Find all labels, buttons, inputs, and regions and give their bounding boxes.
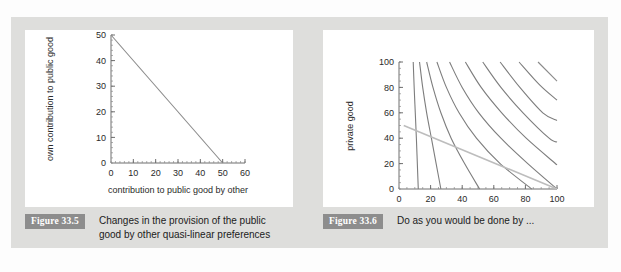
indifference-curve xyxy=(450,62,557,189)
y-tick-label: 10 xyxy=(96,133,106,143)
chart-right-ticklabels: 020406080100020406080100 xyxy=(379,57,565,204)
x-tick-label: 60 xyxy=(240,168,250,178)
chart-right-ticks xyxy=(399,62,557,189)
indifference-curve xyxy=(413,62,418,189)
x-tick-label: 0 xyxy=(108,168,113,178)
y-axis-title: own contribution to public good xyxy=(45,37,55,161)
x-tick-label: 60 xyxy=(489,194,499,204)
x-tick-label: 0 xyxy=(396,194,401,204)
y-tick-label: 20 xyxy=(384,159,394,169)
figure-badge-33-6: Figure 33.6 xyxy=(323,214,383,229)
caption-figure-33-5: Figure 33.5 Changes in the provision of … xyxy=(25,214,315,241)
chart-left-ticks xyxy=(111,35,245,163)
x-tick-label: 40 xyxy=(195,168,205,178)
x-tick-label: 100 xyxy=(549,194,564,204)
x-tick-label: 40 xyxy=(457,194,467,204)
scanned-page: 010203040506001020304050 contribution to… xyxy=(0,0,621,272)
caption-text-33-5: Changes in the provision of the public g… xyxy=(99,214,315,241)
chart-left-ticklabels: 010203040506001020304050 xyxy=(96,30,250,178)
indifference-curve xyxy=(420,62,441,189)
y-axis-title: private good xyxy=(345,101,355,151)
x-tick-label: 30 xyxy=(173,168,183,178)
chart-left-svg: 010203040506001020304050 contribution to… xyxy=(25,30,293,207)
chart-right-axes xyxy=(399,62,557,189)
chart-left-series xyxy=(111,35,223,163)
x-axis-title: contribution to public good by other xyxy=(108,185,248,195)
chart-right-series xyxy=(404,62,557,189)
caption-figure-33-6: Figure 33.6 Do as you would be done by .… xyxy=(323,214,603,229)
x-tick-label: 20 xyxy=(426,194,436,204)
y-tick-label: 20 xyxy=(96,107,106,117)
x-tick-label: 10 xyxy=(128,168,138,178)
indifference-curve xyxy=(427,62,480,189)
x-tick-label: 80 xyxy=(520,194,530,204)
y-tick-label: 0 xyxy=(101,158,106,168)
figure-badge-33-5: Figure 33.5 xyxy=(25,214,85,229)
data-line xyxy=(111,35,223,163)
budget-line xyxy=(404,126,557,190)
y-tick-label: 60 xyxy=(384,108,394,118)
y-tick-label: 40 xyxy=(96,56,106,66)
caption-line-1: Do as you would be done by ... xyxy=(397,215,534,226)
y-tick-label: 50 xyxy=(96,30,106,40)
y-tick-label: 0 xyxy=(389,184,394,194)
y-tick-label: 30 xyxy=(96,81,106,91)
chart-left-axes xyxy=(111,35,245,163)
y-tick-label: 40 xyxy=(384,133,394,143)
caption-text-33-6: Do as you would be done by ... xyxy=(397,214,603,228)
figure-panel: 010203040506001020304050 contribution to… xyxy=(11,17,608,248)
data-line xyxy=(538,62,557,81)
y-tick-label: 80 xyxy=(384,83,394,93)
plot-card-left: 010203040506001020304050 contribution to… xyxy=(25,30,293,207)
indifference-curve xyxy=(519,62,557,100)
indifference-curve xyxy=(437,62,532,189)
indifference-curve xyxy=(500,62,557,120)
x-tick-label: 20 xyxy=(151,168,161,178)
plot-card-right: 020406080100020406080100 public good pri… xyxy=(323,30,594,207)
y-tick-label: 100 xyxy=(379,57,394,67)
chart-right-svg: 020406080100020406080100 public good pri… xyxy=(323,30,594,207)
caption-line-1: Changes in the provision of the public xyxy=(99,215,266,226)
x-tick-label: 50 xyxy=(218,168,228,178)
caption-line-2: good by other quasi-linear preferences xyxy=(99,229,270,240)
